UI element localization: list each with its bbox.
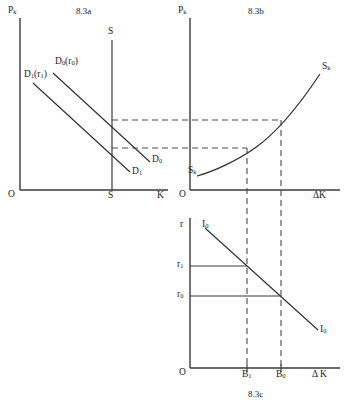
panel-c-curve-label-top: I0 (202, 220, 208, 230)
panel-a-y-axis-label: Pk (8, 6, 17, 16)
panel-c-x-axis-label: Δ K (312, 370, 327, 380)
panel-c-y-tick-label-r0: r0 (177, 290, 183, 300)
panel-c-group (190, 218, 340, 372)
panel-a-x-tick-label: S (108, 191, 113, 201)
panel-a-group (20, 18, 168, 190)
panel-c-x-tick-label-b1: B1 (242, 370, 252, 380)
panel-b-y-axis-label: Pk (178, 6, 187, 16)
panel-a-demand-curve-d0 (53, 73, 150, 162)
panel-a-demand-label-d0: D0(r0) (55, 57, 78, 67)
panel-a-demand-label-d1: D1(r1) (24, 70, 47, 80)
panel-a-demand-curve-d1 (33, 83, 130, 172)
figure-8-3-container: Pk 8.3a S D0(r0) D1(r1) D0 D1 O S K Pk 8… (0, 0, 352, 410)
panel-a-supply-label: S (108, 27, 113, 37)
panel-a-demand-end-label-d1: D1 (132, 167, 142, 177)
panel-b-origin-label: O (179, 190, 186, 200)
panel-a-demand-end-label-d0: D0 (152, 155, 162, 165)
linking-dashed-lines-group (112, 120, 281, 368)
panel-a-x-axis-label: K (157, 191, 164, 201)
figure-8-3-svg (0, 0, 352, 410)
panel-c-y-axis-label: r (180, 220, 183, 230)
panel-c-title: 8.3c (248, 390, 263, 399)
panel-c-origin-label: O (179, 368, 186, 378)
panel-c-investment-curve-i0 (205, 228, 318, 330)
panel-c-curve-label-bottom: I0 (320, 325, 326, 335)
panel-b-title: 8.3b (248, 7, 264, 16)
panel-c-y-tick-label-r1: r1 (177, 260, 183, 270)
panel-b-supply-label-upper: Sk (322, 62, 331, 72)
panel-b-supply-label-lower: Sk (188, 166, 197, 176)
panel-a-title: 8.3a (76, 7, 91, 16)
panel-a-origin-label: O (8, 190, 15, 200)
panel-b-supply-curve-sk (197, 74, 320, 176)
panel-b-group (190, 18, 340, 190)
panel-c-x-tick-label-b0: B0 (276, 370, 286, 380)
panel-b-x-axis-label: ΔK (313, 191, 326, 201)
